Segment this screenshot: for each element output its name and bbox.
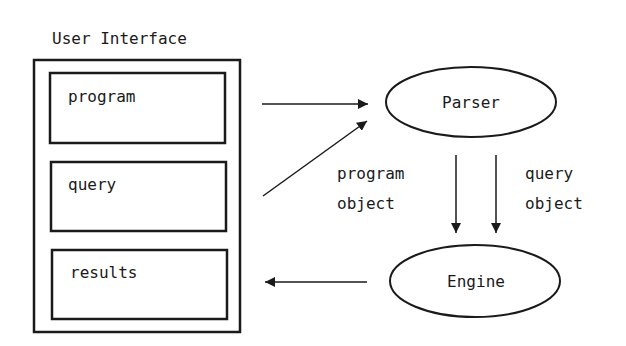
query-to-parser-arrow <box>263 121 367 196</box>
results-panel-label: results <box>70 263 137 282</box>
query-object-label-line1: query <box>525 164 574 183</box>
user-interface-title: User Interface <box>52 29 187 48</box>
engine-label: Engine <box>447 272 505 291</box>
program-panel: program <box>50 73 225 143</box>
parser-label: Parser <box>442 93 500 112</box>
results-panel: results <box>52 250 227 319</box>
query-panel: query <box>51 162 226 231</box>
program-object-label-line1: program <box>337 164 404 183</box>
query-panel-label: query <box>68 175 117 194</box>
parser-node: Parser <box>386 67 556 137</box>
program-object-label-line2: object <box>337 194 395 213</box>
architecture-diagram: User Interface program query results Par… <box>0 0 626 346</box>
program-panel-label: program <box>68 87 135 106</box>
query-object-label-line2: object <box>525 194 583 213</box>
engine-node: Engine <box>390 245 560 317</box>
user-interface-box <box>34 60 240 332</box>
